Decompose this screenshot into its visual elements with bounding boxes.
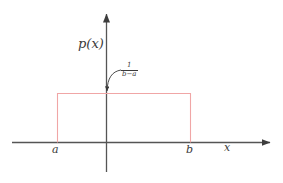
pdf-height-annotation: 1 b−a: [121, 62, 138, 79]
y-axis-label: p(x): [78, 36, 104, 51]
x-axis-label: x: [224, 141, 230, 154]
annotation-pointer-arrow: [107, 70, 121, 91]
x-tick-label-b: b: [186, 143, 193, 156]
fraction-denominator: b−a: [121, 71, 138, 78]
uniform-pdf-curve: [58, 94, 191, 143]
plot-canvas: [0, 0, 283, 183]
x-tick-label-a: a: [52, 143, 59, 156]
uniform-distribution-figure: p(x) a b x 1 b−a: [0, 0, 283, 183]
fraction-numerator: 1: [121, 62, 138, 69]
